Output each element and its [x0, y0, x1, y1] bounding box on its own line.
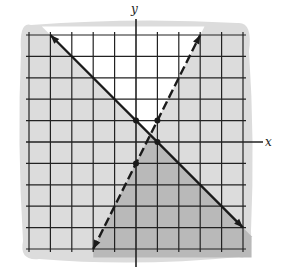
solid-line-point [154, 139, 160, 145]
x-axis-label: x [265, 135, 272, 149]
dashed-line-point [133, 160, 139, 166]
solid-line-point [133, 118, 139, 124]
inequality-graph: y x [0, 0, 286, 280]
y-axis-label: y [130, 2, 138, 16]
dashed-line-point [154, 118, 160, 124]
